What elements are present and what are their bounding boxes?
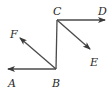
label-c: C [53, 5, 62, 18]
label-b: B [51, 77, 60, 90]
segment-bf [20, 38, 56, 69]
label-e: E [89, 56, 98, 69]
segment-bc [56, 20, 57, 69]
label-f: F [9, 28, 18, 41]
vector-diagram: A B C D E F [0, 0, 108, 91]
diagram-canvas: A B C D E F [0, 0, 108, 91]
label-d: D [97, 5, 107, 18]
label-a: A [7, 77, 16, 90]
segment-ce [57, 20, 90, 49]
